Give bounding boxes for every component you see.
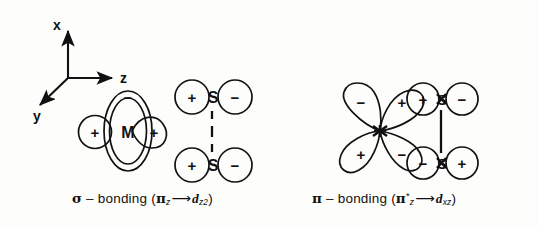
caption-pi-symbol: π: [312, 190, 322, 206]
caption-pi-acceptor: d: [436, 191, 443, 206]
axis-key: [40, 31, 112, 105]
orbital-overlap-figure: x z y − M: [0, 0, 538, 229]
pi-bottom-minus-sign: −: [419, 155, 428, 172]
caption-sigma-arrow: ⟶: [170, 190, 192, 206]
sigma-bottom-minus-sign: −: [231, 157, 240, 174]
caption-pi: π – bonding (π*z⟶dxz): [312, 190, 456, 207]
dz2-torus-sign: −: [124, 89, 133, 106]
caption-sigma-close: ): [208, 191, 213, 206]
caption-sigma-acceptor: d: [192, 191, 199, 206]
sigma-top-atom-label: S: [208, 89, 219, 106]
dz2-lobe-right-sign: +: [150, 124, 159, 141]
caption-sigma-symbol: σ: [72, 190, 82, 206]
axis-z-label: z: [120, 70, 127, 86]
sigma-top-minus-sign: −: [231, 89, 240, 106]
dz2-metal-label: M: [121, 124, 134, 141]
caption-pi-donor: π: [396, 190, 406, 206]
pi-top-atom-label: S: [437, 91, 447, 108]
caption-sigma-donor: π: [156, 190, 166, 206]
caption-pi-close: ): [451, 191, 456, 206]
caption-pi-dash: –: [326, 191, 334, 206]
dxz-lobe-lower-right-sign: −: [398, 146, 407, 163]
sigma-top-plus-sign: +: [188, 89, 197, 106]
dz2-lobe-left-sign: +: [91, 124, 100, 141]
panel-sigma: [79, 80, 253, 182]
axis-y-line: [40, 78, 68, 105]
axis-y-label: y: [33, 108, 41, 124]
caption-sigma: σ – bonding (πz⟶dz2): [72, 190, 213, 207]
pi-top-minus-sign: −: [458, 91, 467, 108]
caption-pi-word: bonding: [338, 191, 387, 206]
dxz-lobe-upper-left-sign: −: [357, 94, 366, 111]
pi-top-plus-sign: +: [419, 91, 428, 108]
caption-sigma-word: bonding: [98, 191, 147, 206]
caption-sigma-acceptor-sub: z2: [199, 197, 208, 207]
dxz-metal-center: [373, 125, 387, 137]
caption-sigma-dash: –: [86, 191, 94, 206]
sigma-bottom-plus-sign: +: [188, 157, 197, 174]
sigma-bottom-atom-label: S: [208, 157, 219, 174]
axis-x-label: x: [53, 17, 61, 33]
dxz-lobe-upper-right-sign: +: [398, 94, 407, 111]
pi-bottom-atom-label: S: [437, 155, 447, 172]
pi-bottom-plus-sign: +: [458, 155, 467, 172]
caption-pi-arrow: ⟶: [414, 190, 436, 206]
dxz-lobe-lower-left-sign: +: [357, 146, 366, 163]
